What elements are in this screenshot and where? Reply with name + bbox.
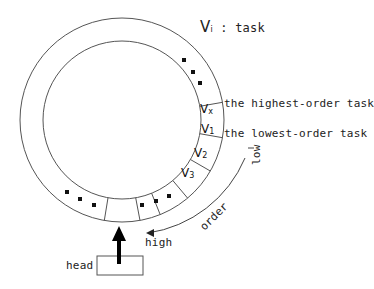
- head-pointer-arrow-icon: [112, 226, 126, 241]
- ellipsis-dots-upper: [182, 58, 202, 85]
- segment-vx: Vx: [200, 102, 213, 116]
- segment-v1: V1: [201, 122, 214, 136]
- outer-ring: [20, 18, 224, 222]
- lowest-order-label: the lowest-order task: [224, 127, 367, 140]
- high-label: high: [145, 236, 172, 249]
- segment-v2: V2: [194, 146, 207, 160]
- highest-order-label: the highest-order task: [224, 97, 374, 110]
- segment-v3: V3: [181, 166, 194, 180]
- order-arc: [148, 158, 245, 233]
- inner-ring: [43, 41, 201, 199]
- segment-dividers: [104, 102, 222, 220]
- legend: Vi : task: [200, 18, 265, 36]
- low-label: low: [250, 145, 263, 165]
- head-label: head: [66, 259, 93, 272]
